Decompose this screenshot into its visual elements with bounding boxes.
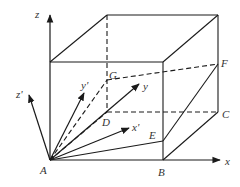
- cube-coordinate-diagram: x z z' y' y x' A B C D E F G: [0, 0, 240, 187]
- label-x-prime: x': [131, 121, 140, 133]
- z-prime-axis: [29, 95, 50, 160]
- y-axis: [50, 84, 139, 160]
- label-point-G: G: [109, 69, 117, 81]
- label-y-prime: y': [80, 79, 89, 91]
- top-left-edge: [50, 15, 107, 62]
- top-right-edge: [163, 15, 218, 62]
- segment-A-E: [50, 141, 163, 160]
- label-z-prime: z': [15, 88, 23, 100]
- label-z: z: [34, 8, 40, 20]
- label-point-B: B: [158, 166, 165, 178]
- label-y: y: [142, 80, 148, 92]
- label-point-A: A: [39, 164, 47, 176]
- label-point-C: C: [222, 108, 230, 120]
- bottom-right-edge: [163, 112, 218, 160]
- label-point-E: E: [148, 129, 156, 141]
- label-point-F: F: [220, 57, 228, 69]
- segment-E-F: [163, 64, 218, 141]
- label-point-D: D: [101, 116, 110, 128]
- label-x: x: [224, 155, 230, 167]
- y-prime-axis: [50, 93, 84, 160]
